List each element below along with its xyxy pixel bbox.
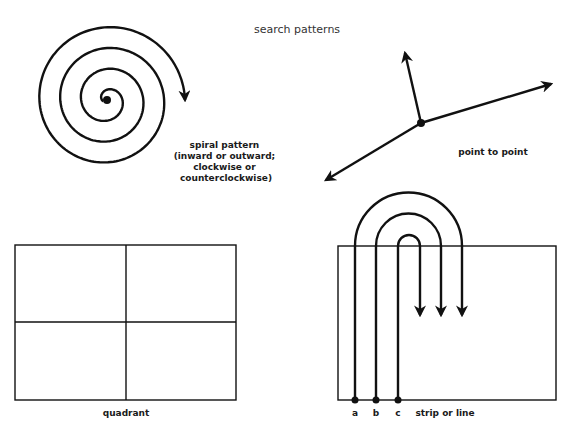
start-point-a <box>352 397 359 404</box>
strip-pattern: a b c strip or line <box>338 193 556 418</box>
quadrant-pattern: quadrant <box>15 245 236 418</box>
start-point-c <box>395 397 402 404</box>
strip-label: strip or line <box>415 408 474 418</box>
strip-outline <box>338 246 556 400</box>
arrow-right <box>421 84 551 123</box>
point-to-point-label: point to point <box>458 147 528 157</box>
quadrant-label: quadrant <box>103 408 150 418</box>
arrow-down-left <box>326 123 421 180</box>
spiral-line <box>39 27 185 162</box>
strip-path-b <box>376 214 441 401</box>
spiral-label: spiral pattern (inward or outward; clock… <box>174 140 279 183</box>
start-label-a: a <box>352 408 358 418</box>
spiral-pattern: spiral pattern (inward or outward; clock… <box>39 27 278 183</box>
arrow-up <box>405 53 421 123</box>
point-to-point-pattern: point to point <box>326 53 551 180</box>
strip-path-c <box>398 235 420 400</box>
spiral-center-point <box>103 96 111 104</box>
diagram-title: search patterns <box>254 23 340 36</box>
origin-point <box>417 119 425 127</box>
start-point-b <box>373 397 380 404</box>
start-label-b: b <box>373 408 380 418</box>
start-label-c: c <box>395 408 400 418</box>
strip-path-a <box>355 193 462 400</box>
search-patterns-diagram: search patterns spiral pattern (inward o… <box>0 0 576 436</box>
